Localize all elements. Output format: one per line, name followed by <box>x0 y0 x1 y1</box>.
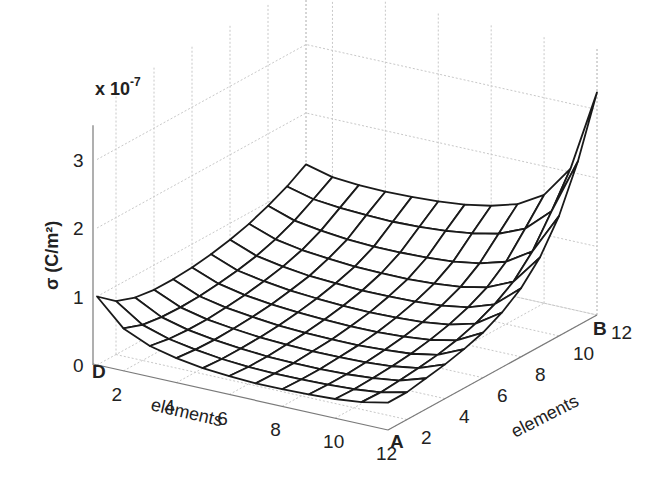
z-axis-label: σ (C/m²) <box>42 221 62 290</box>
corner-label-b: B <box>593 318 607 339</box>
x-tick-label: 6 <box>217 408 228 429</box>
y-tick-label: 6 <box>497 385 508 406</box>
x-tick-label: 2 <box>111 384 122 405</box>
x-tick-label: 4 <box>164 396 175 417</box>
y-tick-label: 2 <box>421 427 432 448</box>
z-tick-label: 0 <box>73 355 84 376</box>
y-tick-label: 12 <box>611 322 632 343</box>
z-multiplier: x 10-7 <box>95 75 141 99</box>
surface-plot: x 10-7 σ (C/m²) elements elements D A B … <box>0 0 666 481</box>
corner-label-d: D <box>92 361 106 382</box>
z-tick-label: 2 <box>73 218 84 239</box>
y-tick-label: 10 <box>573 343 594 364</box>
x-axis-label: elements <box>149 394 225 430</box>
z-tick-label: 3 <box>73 150 84 171</box>
z-tick-label: 1 <box>73 287 84 308</box>
x-tick-label: 10 <box>323 431 344 452</box>
x-tick-label: 12 <box>376 443 397 464</box>
x-tick-label: 8 <box>270 419 281 440</box>
y-tick-label: 8 <box>535 364 546 385</box>
y-tick-label: 4 <box>459 406 470 427</box>
y-axis-label: elements <box>508 391 582 442</box>
